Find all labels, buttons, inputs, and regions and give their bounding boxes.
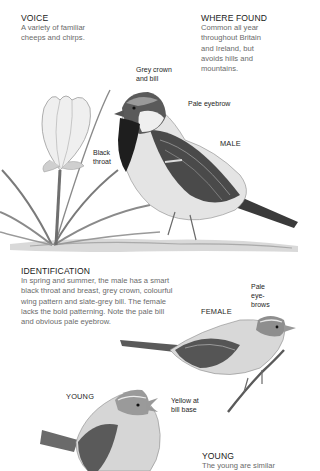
voice-line: A variety of familiar xyxy=(21,23,141,33)
male-caption: MALE xyxy=(220,139,241,148)
young-heading: YOUNG xyxy=(202,451,298,461)
where-found-line: avoids hills and xyxy=(201,54,296,64)
voice-section: VOICE A variety of familiar cheeps and c… xyxy=(21,13,141,44)
female-caption: FEMALE xyxy=(201,307,232,316)
young-caption: YOUNG xyxy=(66,392,94,401)
identification-line: wing pattern and slate-grey bill. The fe… xyxy=(21,297,221,307)
voice-heading: VOICE xyxy=(21,13,141,23)
annotation-yellow-bill-base: Yellow at bill base xyxy=(171,396,199,414)
where-found-line: mountains. xyxy=(201,64,296,74)
annotation-black-throat: Black throat xyxy=(93,148,111,166)
where-found-section: WHERE FOUND Common all year throughout B… xyxy=(201,13,296,74)
voice-line: cheeps and chirps. xyxy=(21,33,141,43)
where-found-heading: WHERE FOUND xyxy=(201,13,296,23)
identification-line: black throat and breast, grey crown, col… xyxy=(21,286,221,296)
identification-line: and obvious pale eyebrow. xyxy=(21,317,221,327)
annotation-pale-eyebrows: Pale eye- brows xyxy=(251,282,270,309)
identification-line: lacks the bold patterning. Note the pale… xyxy=(21,307,221,317)
annotation-pale-eyebrow: Pale eyebrow xyxy=(188,99,230,108)
where-found-line: throughout Britain xyxy=(201,33,296,43)
annotation-grey-crown: Grey crown and bill xyxy=(136,65,172,83)
identification-line: In spring and summer, the male has a sma… xyxy=(21,276,221,286)
young-line: The young are similar xyxy=(202,461,298,471)
identification-heading: IDENTIFICATION xyxy=(21,266,221,276)
young-section: YOUNG The young are similar xyxy=(202,451,298,471)
where-found-line: Common all year xyxy=(201,23,296,33)
where-found-line: and Ireland, but xyxy=(201,44,296,54)
identification-section: IDENTIFICATION In spring and summer, the… xyxy=(21,266,221,327)
